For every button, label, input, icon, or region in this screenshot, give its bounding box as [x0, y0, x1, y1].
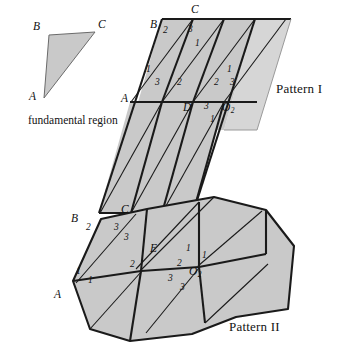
pattern-two-angle-10: 3: [180, 282, 185, 292]
pattern-two-angle-7: 1: [186, 243, 191, 253]
pattern-one-vertex-d: D: [183, 101, 191, 113]
figure-root: B C A fundamental region B C A D O2 2 3 …: [0, 0, 347, 359]
pattern-one-angle-0: 2: [163, 25, 168, 35]
fundamental-vertex-c: C: [98, 18, 106, 30]
pattern-one-vertex-o2: O2: [222, 101, 234, 113]
pattern-two-vertex-c: C: [121, 203, 129, 215]
pattern-two-angle-3: 1: [76, 266, 81, 276]
pattern-two-angle-1: 3: [114, 222, 119, 232]
pattern-one-group: [99, 19, 291, 213]
pattern-two-vertex-o2: O2: [189, 265, 201, 277]
fundamental-region-shape: [44, 32, 95, 98]
pattern-two-vertex-a: A: [54, 288, 61, 300]
pattern-one-angle-2: 1: [195, 38, 200, 48]
pattern-one-vertex-c: C: [191, 3, 199, 15]
pattern-one-angle-9: 3: [204, 101, 209, 111]
pattern-one-angle-5: 2: [177, 77, 182, 87]
pattern-two-angle-5: 2: [130, 259, 135, 269]
pattern-two-angle-6: 2: [177, 258, 182, 268]
fundamental-region-caption: fundamental region: [28, 114, 118, 126]
pattern-two-angle-2: 3: [124, 232, 129, 242]
pattern-one-vertex-b: B: [150, 18, 157, 30]
pattern-two-vertex-b: B: [71, 212, 78, 224]
fundamental-vertex-b: B: [33, 20, 40, 32]
pattern-two-vertex-e: E: [150, 242, 157, 254]
pattern-one-angle-8: 3: [230, 77, 235, 87]
fundamental-region-triangle: [44, 32, 95, 98]
pattern-two-angle-8: 1: [202, 250, 207, 260]
tessellation-figure: [0, 0, 347, 359]
pattern-one-vertex-o2-letter: O: [222, 101, 230, 113]
fundamental-vertex-a: A: [29, 90, 36, 102]
pattern-one-angle-6: 2: [214, 77, 219, 87]
pattern-two-angle-4: 1: [88, 275, 93, 285]
pattern-one-angle-10: 1: [210, 114, 215, 124]
pattern-one-vertex-a: A: [121, 92, 128, 104]
pattern-one-caption: Pattern I: [276, 81, 322, 97]
pattern-two-vertex-o2-letter: O: [189, 265, 197, 277]
pattern-two-vertex-o2-subscript: 2: [198, 270, 202, 279]
pattern-one-angle-7: 1: [227, 64, 232, 74]
pattern-one-angle-1: 3: [188, 24, 193, 34]
pattern-one-angle-4: 3: [155, 77, 160, 87]
pattern-one-vertex-o2-subscript: 2: [231, 106, 235, 115]
pattern-one-angle-3: 1: [146, 64, 151, 74]
pattern-two-angle-0: 2: [86, 222, 91, 232]
pattern-two-angle-9: 3: [168, 273, 173, 283]
pattern-two-caption: Pattern II: [229, 319, 280, 335]
